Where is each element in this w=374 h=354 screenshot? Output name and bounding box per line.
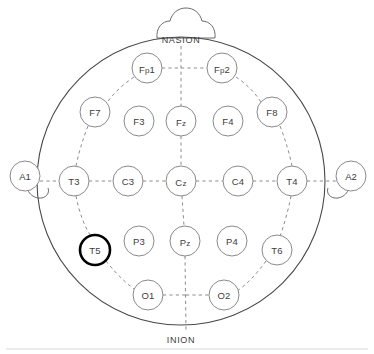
electrode-label-f3: F3	[133, 116, 145, 127]
nose-group	[157, 8, 215, 38]
electrode-cz[interactable]: Cz	[166, 166, 196, 196]
electrode-f8[interactable]: F8	[257, 97, 287, 127]
electrode-label-f7: F7	[89, 107, 101, 118]
guide-ring-t6-o2	[237, 261, 266, 291]
electrode-label-p4: P4	[226, 236, 238, 247]
electrode-o2[interactable]: O2	[209, 280, 239, 310]
electrode-label-f4: F4	[222, 116, 234, 127]
electrode-label-cz: Cz	[175, 176, 186, 187]
guide-ring-t5-o1	[106, 261, 137, 291]
electrode-label-c4: C4	[232, 176, 245, 187]
electrode-fp2[interactable]: Fp2	[207, 53, 237, 83]
electrode-c3[interactable]: C3	[113, 166, 143, 196]
electrode-fp1[interactable]: Fp1	[132, 53, 162, 83]
electrode-c4[interactable]: C4	[223, 166, 253, 196]
nose-icon	[157, 8, 215, 38]
electrode-label-t6: T6	[271, 245, 283, 256]
electrode-label-a2: A2	[345, 171, 357, 182]
electrode-label-p3: P3	[133, 236, 145, 247]
electrode-label-a1: A1	[19, 171, 31, 182]
guide-ring-t3-t5	[76, 196, 91, 236]
electrode-label-pz: Pz	[180, 236, 191, 247]
electrode-label-fz: Fz	[176, 116, 186, 127]
electrode-label-o1: O1	[141, 290, 154, 301]
electrode-p4[interactable]: P4	[217, 226, 247, 256]
electrode-label-fp2: Fp2	[214, 63, 230, 74]
electrode-label-t5: T5	[89, 245, 101, 256]
guide-ring-f7-t3	[76, 126, 88, 166]
electrode-fz[interactable]: Fz	[166, 106, 196, 136]
electrode-label-t3: T3	[68, 176, 80, 187]
electrode-label-t4: T4	[286, 176, 298, 187]
electrode-f7[interactable]: F7	[80, 97, 110, 127]
eeg-electrode-map: Fp1Fp2F7F3FzF4F8T3C3CzC4T4T5P3PzP4T6O1O2…	[0, 0, 374, 354]
electrode-label-f8: F8	[266, 107, 278, 118]
electrode-t4[interactable]: T4	[277, 166, 307, 196]
electrode-label-o2: O2	[217, 290, 230, 301]
electrode-f4[interactable]: F4	[213, 106, 243, 136]
electrode-a1[interactable]: A1	[10, 161, 40, 191]
electrode-p3[interactable]: P3	[124, 226, 154, 256]
electrode-f3[interactable]: F3	[124, 106, 154, 136]
electrode-pz[interactable]: Pz	[170, 226, 200, 256]
electrode-label-fp1: Fp1	[139, 63, 155, 74]
eeg-diagram-root: Fp1Fp2F7F3FzF4F8T3C3CzC4T4T5P3PzP4T6O1O2…	[0, 0, 374, 354]
inion-label: INION	[167, 335, 196, 345]
electrode-t5[interactable]: T5	[80, 235, 110, 265]
electrode-t3[interactable]: T3	[59, 166, 89, 196]
guide-cz-pz	[182, 196, 184, 226]
electrode-t6[interactable]: T6	[262, 235, 292, 265]
guide-ring-t4-t6	[280, 196, 291, 236]
guide-pz-inion	[185, 256, 186, 330]
guide-ring-fp1-f7	[106, 77, 134, 104]
electrode-o1[interactable]: O1	[133, 280, 163, 310]
guide-ring-fp2-f8	[236, 77, 262, 104]
guide-ring-f8-t4	[280, 126, 292, 166]
electrode-a2[interactable]: A2	[336, 161, 366, 191]
nasion-label: NASION	[162, 35, 201, 45]
electrode-label-c3: C3	[122, 176, 135, 187]
